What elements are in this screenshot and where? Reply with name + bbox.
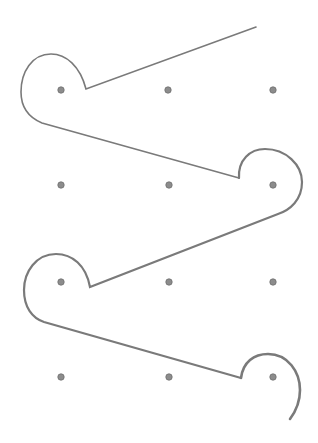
path-segment-2 (24, 149, 302, 378)
grid-dot-r4-c2 (166, 374, 172, 380)
grid-dot-r3-c1 (58, 279, 64, 285)
grid-dot-r1-c2 (165, 87, 171, 93)
zigzag-loop-path (21, 27, 302, 419)
grid-dot-r3-c2 (166, 279, 172, 285)
grid-dot-r3-c3 (270, 279, 276, 285)
grid-dot-r2-c3 (270, 182, 276, 188)
path-segment-1 (21, 27, 256, 178)
grid-dot-r1-c1 (58, 87, 64, 93)
grid-dot-r1-c3 (270, 87, 276, 93)
dot-grid-diagram (0, 0, 318, 443)
grid-dot-r4-c1 (58, 374, 64, 380)
grid-dot-r2-c2 (166, 182, 172, 188)
path-segment-3 (241, 354, 300, 419)
grid-dot-r2-c1 (58, 182, 64, 188)
grid-dot-r4-c3 (270, 374, 276, 380)
